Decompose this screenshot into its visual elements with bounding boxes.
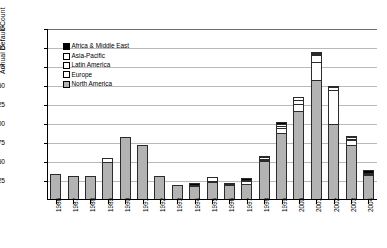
x-axis-label-cell: 2001	[308, 205, 325, 239]
legend-swatch	[63, 43, 70, 50]
x-axis-label-cell: 1993	[169, 205, 186, 239]
x-axis-label-cell: 2002	[325, 205, 342, 239]
legend-swatch	[63, 53, 70, 60]
x-axis-label-cell: 2000	[290, 205, 307, 239]
x-axis-tick-label: 1989	[108, 198, 114, 212]
x-axis-label-cell: 1994	[186, 205, 203, 239]
x-axis-label-cell: 1989	[99, 205, 116, 239]
x-axis-label-cell: 1998	[256, 205, 273, 239]
chart-container: Annual Default Count 2550751001251501752…	[0, 0, 387, 248]
x-axis-label-cell: 1996	[221, 205, 238, 239]
x-axis-tick-label: 1998	[264, 198, 270, 212]
x-axis-label-cell: 2003	[342, 205, 359, 239]
legend-label: Europe	[72, 72, 93, 78]
y-axis-tick-label: 100	[0, 121, 5, 128]
legend-item: Latin America	[63, 61, 129, 70]
x-axis-tick-label: 1993	[177, 198, 183, 212]
legend-item: North America	[63, 80, 129, 89]
legend-label: Latin America	[72, 62, 111, 68]
x-axis-tick-label: 1995	[212, 198, 218, 212]
legend-swatch	[63, 62, 70, 69]
x-axis-tick-label: 2003	[351, 198, 357, 212]
legend-item: Europe	[63, 70, 129, 79]
x-axis-label-cell: 1999	[273, 205, 290, 239]
x-axis-labels: 1986198719881989199019911992199319941995…	[47, 205, 377, 239]
y-axis-tick-label: 225	[0, 26, 5, 33]
x-axis-label-cell: 1995	[203, 205, 220, 239]
x-axis-tick-label: 1996	[229, 198, 235, 212]
legend-label: Asia-Pacific	[72, 53, 105, 59]
x-axis-tick-label: 2004	[368, 198, 374, 212]
x-axis-tick-label: 1986	[56, 198, 62, 212]
x-axis-label-cell: 1991	[134, 205, 151, 239]
legend-item: Africa & Middle East	[63, 42, 129, 51]
x-axis-label-cell: 2004	[360, 205, 377, 239]
legend-swatch	[63, 81, 70, 88]
x-axis-tick-label: 1999	[282, 198, 288, 212]
x-axis-tick-label: 1992	[160, 198, 166, 212]
y-axis-tick-label: 50	[0, 159, 5, 166]
chart-legend: Africa & Middle EastAsia-PacificLatin Am…	[63, 42, 129, 89]
x-axis-label-cell: 1987	[64, 205, 81, 239]
x-axis-label-cell: 1988	[82, 205, 99, 239]
legend-swatch	[63, 71, 70, 78]
x-axis-tick-label: 2002	[334, 198, 340, 212]
y-axis-tick-label: 200	[0, 45, 5, 52]
x-axis-label-cell: 1990	[117, 205, 134, 239]
x-axis-tick-label: 2000	[299, 198, 305, 212]
x-axis-tick-label: 1994	[195, 198, 201, 212]
legend-label: North America	[72, 81, 113, 87]
x-axis-tick-label: 2001	[316, 198, 322, 212]
x-axis-label-cell: 1986	[47, 205, 64, 239]
x-axis-label-cell: 1997	[238, 205, 255, 239]
x-axis-tick-label: 1997	[247, 198, 253, 212]
y-axis-tick-label: 75	[0, 140, 5, 147]
x-axis-tick-label: 1990	[125, 198, 131, 212]
legend-item: Asia-Pacific	[63, 51, 129, 60]
y-axis-tick-label: 25	[0, 178, 5, 185]
x-axis-tick-label: 1987	[73, 198, 79, 212]
y-axis-tick-label: 125	[0, 102, 5, 109]
x-axis-label-cell: 1992	[151, 205, 168, 239]
legend-label: Africa & Middle East	[72, 43, 130, 49]
x-axis-tick-label: 1991	[143, 198, 149, 212]
y-axis-tick-label: 150	[0, 83, 5, 90]
y-axis-tick-label: 175	[0, 64, 5, 71]
x-axis-tick-label: 1988	[90, 198, 96, 212]
